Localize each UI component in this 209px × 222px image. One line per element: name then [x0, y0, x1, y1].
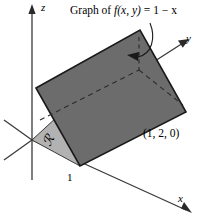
- axis-y-label: y: [186, 33, 191, 44]
- axis-z-label: z: [41, 2, 45, 13]
- caption-function: f(x, y): [114, 4, 141, 16]
- axis-x-negative: [4, 120, 32, 140]
- point-coordinate-label: (1, 2, 0): [143, 128, 179, 140]
- x-axis-tick-label-one: 1: [67, 172, 73, 183]
- coordinate-plane-drawing: [0, 0, 209, 222]
- graph-figure: Graph of f(x, y) = 1 − x (1, 2, 0) z y x…: [0, 0, 209, 222]
- axis-y-negative: [4, 140, 32, 160]
- caption-equals: = 1 − x: [141, 4, 177, 16]
- axis-z-arrowhead: [28, 4, 35, 14]
- graph-caption: Graph of f(x, y) = 1 − x: [70, 5, 177, 17]
- axis-x-label: x: [178, 193, 183, 204]
- caption-prefix: Graph of: [70, 4, 114, 16]
